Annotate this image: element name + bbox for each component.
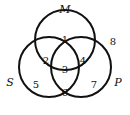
set-label-s: S bbox=[6, 76, 14, 89]
set-label-m: M bbox=[58, 3, 71, 16]
region-7: 7 bbox=[91, 79, 97, 90]
region-6: 6 bbox=[62, 87, 68, 98]
region-2: 2 bbox=[43, 55, 49, 66]
region-3: 3 bbox=[62, 64, 68, 75]
region-1: 1 bbox=[62, 34, 68, 45]
region-8: 8 bbox=[110, 36, 116, 47]
venn-diagram: M S P 1 2 3 4 5 6 7 8 bbox=[0, 0, 130, 115]
region-5: 5 bbox=[33, 79, 39, 90]
circle-s bbox=[19, 37, 79, 97]
circle-p bbox=[51, 37, 111, 97]
region-4: 4 bbox=[80, 55, 86, 66]
set-label-p: P bbox=[113, 76, 122, 89]
